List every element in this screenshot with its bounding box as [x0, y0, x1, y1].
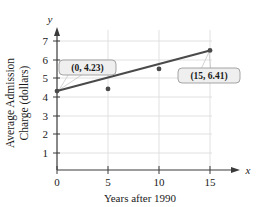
y-tick-label: 5 — [43, 72, 49, 84]
x-axis — [57, 167, 240, 173]
scatter-plot-figure: 7 6 5 4 3 2 1 0 5 10 15 y x Years after … — [0, 0, 257, 207]
x-tick-label: 0 — [54, 176, 60, 188]
x-tick-label: 15 — [205, 176, 217, 188]
y-tick-label: 1 — [43, 147, 49, 159]
y-tick-label: 3 — [43, 110, 49, 122]
y-tick-label: 6 — [43, 54, 49, 66]
x-tick-label: 5 — [105, 176, 111, 188]
x-axis-title: Years after 1990 — [104, 192, 177, 204]
data-point — [55, 89, 60, 94]
y-axis-title-line2: Charge (dollars) — [18, 65, 31, 140]
x-tick-label: 10 — [154, 176, 166, 188]
data-point — [157, 67, 162, 72]
y-tick-label: 7 — [43, 35, 49, 47]
annotation-right-label: (15, 6.41) — [190, 71, 227, 82]
y-axis-symbol: y — [47, 13, 53, 25]
data-point — [106, 87, 111, 92]
y-tick-label: 4 — [43, 91, 49, 103]
vertical-gridlines — [108, 30, 210, 170]
y-axis — [54, 27, 60, 170]
x-axis-tick-labels: 0 5 10 15 — [54, 176, 216, 188]
y-axis-title-line1: Average Admission — [4, 58, 17, 148]
y-axis-tick-labels: 7 6 5 4 3 2 1 — [43, 35, 49, 159]
y-tick-label: 2 — [43, 128, 49, 140]
y-axis-title: Average Admission Charge (dollars) — [4, 58, 31, 148]
annotation-left-callout: (0, 4.23) — [59, 60, 116, 75]
annotation-left-label: (0, 4.23) — [71, 63, 103, 74]
annotation-right-callout: (15, 6.41) — [178, 68, 240, 83]
x-axis-symbol: x — [245, 164, 251, 176]
horizontal-gridlines — [57, 41, 212, 153]
data-point — [208, 48, 213, 53]
